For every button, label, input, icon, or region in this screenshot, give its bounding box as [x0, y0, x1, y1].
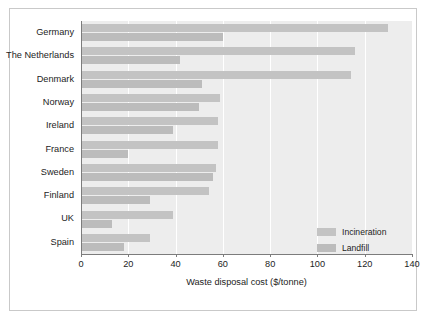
legend-label: Incineration	[342, 227, 386, 237]
x-axis-tick-label: 100	[310, 259, 325, 269]
bar-incineration	[81, 164, 216, 172]
bar-group	[81, 138, 412, 161]
bar-incineration	[81, 211, 173, 219]
bar-incineration	[81, 187, 209, 195]
bar-landfill	[81, 220, 112, 228]
y-axis-tick-label: UK	[61, 207, 74, 230]
x-axis-tick-label: 80	[265, 259, 275, 269]
x-axis-tick-label: 140	[404, 259, 419, 269]
bar-landfill	[81, 126, 173, 134]
legend-swatch-icon	[317, 244, 336, 252]
x-axis-tick-label: 0	[78, 259, 83, 269]
x-axis-tick-label: 120	[357, 259, 372, 269]
plot-area	[81, 21, 412, 254]
chart-figure: GermanyThe NetherlandsDenmarkNorwayIrela…	[9, 8, 417, 311]
legend-swatch-icon	[317, 228, 336, 236]
y-axis-tick-label: Spain	[51, 231, 75, 254]
bar-landfill	[81, 196, 150, 204]
y-axis-tick-label: Germany	[36, 21, 74, 44]
x-axis-tick-mark	[128, 254, 129, 257]
bar-group	[81, 21, 412, 44]
bar-group	[81, 68, 412, 91]
x-axis-tick-mark	[270, 254, 271, 257]
x-axis-tick-label: 60	[218, 259, 228, 269]
bar-group	[81, 184, 412, 207]
bar-incineration	[81, 117, 218, 125]
bar-landfill	[81, 103, 199, 111]
y-axis-tick-label: Ireland	[46, 114, 74, 137]
bar-incineration	[81, 234, 150, 242]
x-axis-tick-label: 20	[123, 259, 133, 269]
bar-landfill	[81, 173, 213, 181]
legend-entry: Incineration	[317, 225, 409, 238]
bar-incineration	[81, 47, 355, 55]
bar-group	[81, 91, 412, 114]
chart-legend: IncinerationLandfill	[317, 225, 409, 257]
y-axis-tick-label: Sweden	[41, 161, 74, 184]
legend-label: Landfill	[342, 243, 369, 253]
x-axis-tick-mark	[81, 254, 82, 257]
bar-landfill	[81, 243, 124, 251]
y-axis-line	[81, 21, 82, 255]
bar-group	[81, 114, 412, 137]
x-axis-tick-label: 40	[170, 259, 180, 269]
legend-entry: Landfill	[317, 241, 409, 254]
x-axis-tick-mark	[412, 254, 413, 257]
y-axis-tick-label: Finland	[44, 184, 74, 207]
bar-group	[81, 44, 412, 67]
bar-incineration	[81, 141, 218, 149]
y-axis-tick-label: Norway	[43, 91, 74, 114]
bar-incineration	[81, 24, 388, 32]
bar-landfill	[81, 56, 180, 64]
bar-incineration	[81, 94, 220, 102]
bar-group	[81, 161, 412, 184]
bar-landfill	[81, 33, 223, 41]
bar-landfill	[81, 150, 128, 158]
x-axis-tick-mark	[176, 254, 177, 257]
x-axis-tick-mark	[223, 254, 224, 257]
bar-incineration	[81, 71, 351, 79]
y-axis-tick-label: The Netherlands	[6, 44, 74, 67]
y-axis-labels: GermanyThe NetherlandsDenmarkNorwayIrela…	[10, 21, 78, 254]
bar-landfill	[81, 80, 202, 88]
x-axis-title: Waste disposal cost ($/tonne)	[81, 277, 412, 287]
y-axis-tick-label: Denmark	[37, 68, 74, 91]
y-axis-tick-label: France	[45, 138, 74, 161]
